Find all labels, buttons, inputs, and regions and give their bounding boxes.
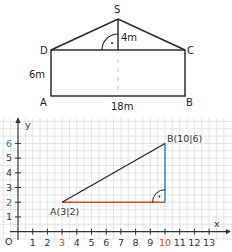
svg-text:1: 1 — [30, 237, 36, 248]
svg-text:11: 11 — [174, 237, 186, 248]
label-a: A — [40, 97, 47, 108]
house-figure: S D C A B 4m 6m 18m — [29, 4, 194, 112]
svg-text:5: 5 — [88, 237, 94, 248]
figure-canvas: S D C A B 4m 6m 18m — [0, 0, 232, 252]
point-b-label: B(10|6) — [167, 133, 202, 144]
svg-text:9: 9 — [147, 237, 153, 248]
label-height: 4m — [121, 32, 137, 43]
label-base: 18m — [111, 101, 133, 112]
x-tick-highlight-10: 10 — [159, 237, 171, 248]
svg-text:2: 2 — [44, 237, 50, 248]
svg-text:3: 3 — [6, 182, 12, 193]
x-tick-highlight-3: 3 — [59, 237, 65, 248]
label-d: D — [40, 45, 48, 56]
svg-text:1: 1 — [6, 211, 12, 222]
y-tick-highlight-6: 6 — [6, 138, 12, 149]
x-axis-label: x — [214, 218, 220, 229]
right-angle-dot-icon — [111, 42, 113, 44]
svg-text:5: 5 — [6, 152, 12, 163]
svg-text:12: 12 — [188, 237, 200, 248]
point-a-label: A(3|2) — [50, 206, 79, 217]
svg-text:6: 6 — [103, 237, 109, 248]
svg-text:13: 13 — [203, 237, 215, 248]
label-side: 6m — [29, 69, 45, 80]
svg-text:8: 8 — [133, 237, 139, 248]
label-b: B — [186, 97, 193, 108]
label-s: S — [114, 4, 120, 15]
right-angle-dot-icon — [159, 196, 161, 198]
y-axis-arrow-icon — [15, 117, 20, 123]
svg-text:4: 4 — [74, 237, 80, 248]
label-c: C — [187, 45, 194, 56]
coordinate-figure: 1 2 3 4 5 6 7 8 9 10 11 12 13 1 2 3 4 5 … — [0, 117, 232, 248]
y-tick-highlight-2: 2 — [6, 197, 12, 208]
svg-text:4: 4 — [6, 167, 12, 178]
right-angle-arc-icon — [102, 34, 118, 50]
y-axis-label: y — [25, 119, 31, 130]
right-angle-arc-icon — [153, 190, 166, 203]
origin-label: O — [5, 236, 12, 247]
svg-text:7: 7 — [118, 237, 124, 248]
x-axis-arrow-icon — [226, 229, 231, 234]
